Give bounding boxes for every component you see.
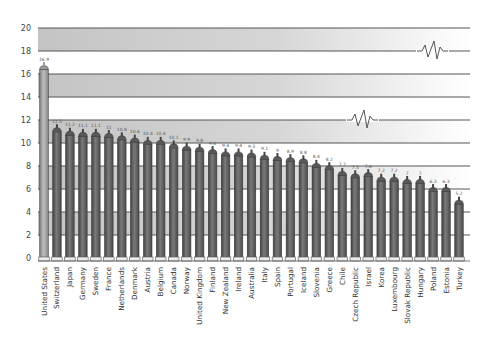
value-label: 7 bbox=[419, 171, 422, 176]
value-label: 9.4 bbox=[222, 143, 229, 148]
x-tick-label: Korea bbox=[377, 267, 386, 287]
value-label: 9.6 bbox=[209, 141, 216, 146]
value-label: 11.5 bbox=[52, 119, 62, 124]
value-label: 7.6 bbox=[365, 164, 372, 169]
x-tick-label: Netherlands bbox=[117, 267, 126, 311]
x-tick-label: Turkey bbox=[455, 266, 464, 291]
bar: 11.2 bbox=[65, 122, 76, 261]
value-label: 10.1 bbox=[169, 135, 179, 140]
value-label: 10.4 bbox=[143, 131, 153, 136]
x-tick-label: Ireland bbox=[234, 267, 243, 292]
x-tick-label: Greece bbox=[325, 266, 334, 292]
bar: 16.9 bbox=[39, 57, 50, 261]
x-tick-label: Switzerland bbox=[52, 267, 61, 309]
y-tick-label: 2 bbox=[26, 231, 31, 240]
x-tick-label: Finland bbox=[208, 267, 217, 293]
x-tick-label: Israel bbox=[364, 267, 373, 287]
bar: 11.1 bbox=[91, 123, 102, 261]
bar: 7 bbox=[415, 171, 426, 262]
x-tick-label: Iceland bbox=[299, 267, 308, 293]
bar: 7.7 bbox=[337, 162, 348, 261]
y-tick-label: 20 bbox=[21, 24, 31, 33]
value-label: 11 bbox=[106, 125, 112, 130]
bar: 8.2 bbox=[324, 157, 335, 261]
bar: 5.2 bbox=[454, 191, 465, 261]
y-tick-label: 6 bbox=[26, 185, 31, 194]
value-label: 7.5 bbox=[352, 165, 359, 170]
bar: 9.8 bbox=[194, 138, 205, 261]
bar: 7.2 bbox=[389, 168, 400, 261]
bar: 9.9 bbox=[181, 137, 192, 261]
y-tick-label: 14 bbox=[21, 93, 31, 102]
value-label: 6.3 bbox=[429, 179, 436, 184]
x-tick-label: Italy bbox=[260, 266, 269, 282]
x-tick-label: Australia bbox=[247, 267, 256, 299]
y-tick-label: 12 bbox=[21, 116, 31, 125]
x-tick-label: Czech Republic bbox=[351, 267, 360, 322]
y-axis: 02468101214161820 bbox=[21, 24, 31, 263]
bar: 8.4 bbox=[311, 154, 322, 261]
x-axis: United StatesSwitzerlandJapanGermanySwed… bbox=[38, 261, 470, 325]
value-label: 9.8 bbox=[196, 138, 203, 143]
x-tick-label: Slovak Republic bbox=[403, 267, 412, 324]
value-label: 6.3 bbox=[442, 179, 449, 184]
bar: 8.9 bbox=[285, 149, 296, 261]
value-label: 11.1 bbox=[78, 123, 88, 128]
x-tick-label: France bbox=[104, 266, 113, 290]
x-tick-label: Canada bbox=[169, 267, 178, 294]
value-label: 9.1 bbox=[261, 146, 268, 151]
bar: 9.1 bbox=[259, 146, 270, 261]
x-tick-label: New Zealand bbox=[221, 267, 230, 314]
x-tick-label: Slovenia bbox=[312, 267, 321, 298]
y-tick-label: 0 bbox=[26, 254, 31, 263]
bar: 7.2 bbox=[376, 168, 387, 261]
value-label: 10.8 bbox=[117, 127, 127, 132]
value-label: 9.3 bbox=[248, 144, 255, 149]
bar: 7.5 bbox=[350, 165, 361, 261]
x-tick-label: Spain bbox=[273, 267, 282, 287]
bar: 9.4 bbox=[233, 143, 244, 261]
x-tick-label: Luxembourg bbox=[390, 267, 399, 312]
x-tick-label: Estonia bbox=[442, 267, 451, 293]
band-gray bbox=[38, 120, 470, 143]
value-label: 9.9 bbox=[183, 137, 190, 142]
x-tick-label: Poland bbox=[429, 267, 438, 291]
bar: 6.3 bbox=[428, 179, 439, 261]
value-label: 5.2 bbox=[455, 191, 462, 196]
x-tick-label: Hungary bbox=[416, 266, 425, 297]
x-tick-label: Japan bbox=[65, 267, 74, 288]
y-tick-label: 8 bbox=[26, 162, 31, 171]
value-label: 8.9 bbox=[287, 149, 294, 154]
bar: 9 bbox=[272, 148, 283, 262]
value-label: 7.2 bbox=[378, 168, 385, 173]
x-tick-label: Belgium bbox=[156, 267, 165, 296]
y-tick-label: 10 bbox=[21, 139, 31, 148]
bar: 11.5 bbox=[52, 119, 63, 261]
y-tick-label: 16 bbox=[21, 70, 31, 79]
bar: 6.3 bbox=[441, 179, 452, 261]
bar: 8.8 bbox=[298, 150, 309, 261]
y-tick-label: 4 bbox=[26, 208, 31, 217]
value-label: 8.4 bbox=[313, 154, 320, 159]
x-tick-label: Austria bbox=[143, 267, 152, 292]
bar: 9.3 bbox=[246, 144, 257, 261]
x-tick-label: Sweden bbox=[91, 267, 100, 295]
band-gray bbox=[38, 74, 470, 97]
value-label: 7 bbox=[406, 171, 409, 176]
x-tick-label: Germany bbox=[78, 266, 87, 300]
value-label: 16.9 bbox=[39, 57, 49, 62]
bar: 7.6 bbox=[363, 164, 374, 261]
x-tick-label: Chile bbox=[338, 266, 347, 285]
value-label: 11.1 bbox=[91, 123, 101, 128]
x-tick-label: United States bbox=[40, 267, 49, 316]
value-label: 10.4 bbox=[156, 131, 166, 136]
bar: 10.4 bbox=[155, 131, 166, 261]
bar: 10.8 bbox=[117, 127, 128, 261]
value-label: 8.2 bbox=[326, 157, 333, 162]
y-tick-label: 18 bbox=[21, 47, 31, 56]
x-tick-label: United Kingdom bbox=[195, 267, 204, 325]
bar: 9.6 bbox=[207, 141, 218, 261]
value-label: 7.2 bbox=[391, 168, 398, 173]
band-gray bbox=[38, 28, 470, 51]
bar: 9.4 bbox=[220, 143, 231, 261]
